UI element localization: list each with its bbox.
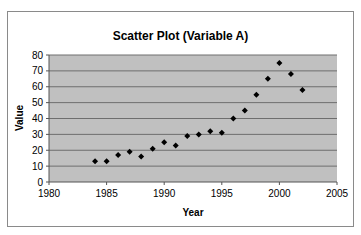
y-tick-label: 30 xyxy=(32,129,44,140)
y-tick-label: 80 xyxy=(32,50,44,61)
scatter-plot: 01020304050607080 1980198519901995200020… xyxy=(0,0,361,235)
y-axis-title: Value xyxy=(14,105,25,132)
x-tick-label: 1980 xyxy=(38,188,61,199)
x-tick-label: 1990 xyxy=(153,188,176,199)
x-tick-label: 2000 xyxy=(268,188,291,199)
y-axis: 01020304050607080 xyxy=(32,50,49,188)
y-tick-label: 20 xyxy=(32,145,44,156)
y-tick-label: 70 xyxy=(32,65,44,76)
x-tick-label: 1995 xyxy=(211,188,234,199)
x-axis-title: Year xyxy=(182,207,203,218)
y-tick-label: 50 xyxy=(32,97,44,108)
x-tick-label: 2005 xyxy=(326,188,349,199)
y-tick-label: 40 xyxy=(32,113,44,124)
x-axis: 198019851990199520002005 xyxy=(38,182,349,199)
y-tick-label: 10 xyxy=(32,161,44,172)
y-tick-label: 60 xyxy=(32,81,44,92)
y-tick-label: 0 xyxy=(37,177,43,188)
x-tick-label: 1985 xyxy=(95,188,118,199)
